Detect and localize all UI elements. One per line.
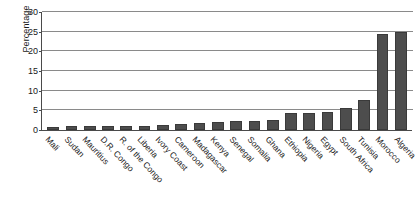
bar-slot <box>392 12 410 130</box>
plot-area: 051015202530 <box>41 12 412 131</box>
bar-slot <box>282 12 300 130</box>
x-label-slot: Tunisia <box>355 133 373 203</box>
y-tick-label-20: 20 <box>28 47 38 56</box>
bar-slot <box>355 12 373 130</box>
bar <box>157 125 169 130</box>
x-label-slot: Algeria <box>392 133 410 203</box>
x-label-slot: Mali <box>43 133 61 203</box>
bar <box>230 121 242 130</box>
bar <box>84 126 96 130</box>
bar <box>267 120 279 130</box>
y-tick-label-0: 0 <box>33 126 38 135</box>
bar <box>322 112 334 130</box>
bar-slot <box>227 12 245 130</box>
bar <box>285 113 297 130</box>
y-tick-mark-0 <box>39 130 43 131</box>
x-label-slot: Ivory Coast <box>153 133 171 203</box>
bar <box>47 127 59 130</box>
y-tick-label-10: 10 <box>28 86 38 95</box>
bar <box>212 122 224 130</box>
bar-slot <box>99 12 117 130</box>
bar-slot <box>264 12 282 130</box>
bar-slot <box>190 12 208 130</box>
bar-slot <box>44 12 62 130</box>
bar-slot <box>62 12 80 130</box>
bar-slot <box>373 12 391 130</box>
bar-slot <box>117 12 135 130</box>
y-tick-label-30: 30 <box>28 8 38 17</box>
x-label-slot: South Africa <box>337 133 355 203</box>
bar-slot <box>81 12 99 130</box>
bar <box>120 126 132 130</box>
y-tick-label-15: 15 <box>28 67 38 76</box>
x-label-slot: Kenya <box>208 133 226 203</box>
bar <box>358 100 370 130</box>
x-label-slot: Somalia <box>245 133 263 203</box>
bar-slot <box>300 12 318 130</box>
x-tick-label: Algeria <box>392 135 417 160</box>
x-label-slot: Ethiopia <box>281 133 299 203</box>
x-tick-label: Mali <box>44 135 61 153</box>
x-label-slot: Nigeria <box>300 133 318 203</box>
bar <box>377 34 389 130</box>
bar <box>139 126 151 130</box>
bar-chart-figure: Percentage 051015202530 MaliSudanMauriti… <box>0 0 418 214</box>
x-label-slot: Egypt <box>318 133 336 203</box>
bar-slot <box>245 12 263 130</box>
x-label-slot: Sudan <box>61 133 79 203</box>
bar <box>340 108 352 130</box>
bar-slot <box>209 12 227 130</box>
x-label-slot: R. of the Congo <box>116 133 134 203</box>
bars-group <box>42 12 412 130</box>
bar <box>395 32 407 130</box>
bar-slot <box>154 12 172 130</box>
x-label-slot: Liberia <box>135 133 153 203</box>
bar <box>66 126 78 130</box>
x-label-slot: Mauritius <box>80 133 98 203</box>
y-tick-label-25: 25 <box>28 27 38 36</box>
bar <box>102 126 114 130</box>
bar <box>249 121 261 130</box>
bar-slot <box>318 12 336 130</box>
x-axis-tick-labels: MaliSudanMauritiusD.R. CongoR. of the Co… <box>41 133 412 203</box>
x-label-slot: Ghana <box>263 133 281 203</box>
bar <box>175 124 187 130</box>
y-tick-label-5: 5 <box>33 106 38 115</box>
x-label-slot: D.R. Congo <box>98 133 116 203</box>
x-label-slot: Cameroon <box>171 133 189 203</box>
bar-slot <box>172 12 190 130</box>
x-label-slot: Morocco <box>373 133 391 203</box>
bar-slot <box>337 12 355 130</box>
bar <box>194 123 206 130</box>
bar-slot <box>135 12 153 130</box>
bar <box>303 113 315 130</box>
x-label-slot: Madagascar <box>190 133 208 203</box>
x-label-slot: Senegal <box>226 133 244 203</box>
